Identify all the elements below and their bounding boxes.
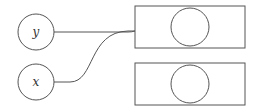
input-node-y-label: y xyxy=(32,25,40,39)
output-box-2-circle xyxy=(171,65,209,103)
diagram-canvas: y x xyxy=(0,0,256,111)
input-node-x-label: x xyxy=(33,75,40,89)
diagram-svg: y x xyxy=(0,0,256,111)
output-box-2[interactable] xyxy=(135,63,245,105)
output-box-1[interactable] xyxy=(135,6,245,48)
output-box-1-circle xyxy=(171,8,209,46)
edge-x-to-box xyxy=(54,31,135,82)
